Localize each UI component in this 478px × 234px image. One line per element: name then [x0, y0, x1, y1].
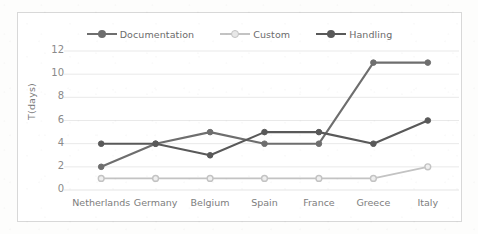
series-line-documentation	[101, 63, 428, 167]
data-point-custom-italy	[425, 164, 431, 170]
chart-plot-area	[0, 0, 478, 234]
data-point-custom-netherlands	[98, 176, 104, 182]
data-point-custom-belgium	[207, 176, 213, 182]
data-point-handling-france	[316, 129, 322, 135]
data-point-custom-germany	[153, 176, 159, 182]
data-point-documentation-netherlands	[98, 164, 104, 170]
data-point-custom-greece	[371, 176, 377, 182]
data-point-custom-spain	[262, 176, 268, 182]
data-point-handling-netherlands	[98, 141, 104, 147]
data-point-handling-belgium	[207, 153, 213, 159]
data-point-documentation-italy	[425, 60, 431, 66]
data-point-custom-france	[316, 176, 322, 182]
data-point-handling-italy	[425, 118, 431, 124]
data-point-documentation-france	[316, 141, 322, 147]
data-point-documentation-spain	[262, 141, 268, 147]
data-point-handling-germany	[153, 141, 159, 147]
data-point-handling-spain	[262, 129, 268, 135]
data-point-documentation-greece	[371, 60, 377, 66]
data-point-handling-greece	[371, 141, 377, 147]
series-line-handling	[101, 121, 428, 156]
data-point-documentation-belgium	[207, 129, 213, 135]
chart-container: Documentation Custom Handling T(days) 12…	[0, 0, 478, 234]
